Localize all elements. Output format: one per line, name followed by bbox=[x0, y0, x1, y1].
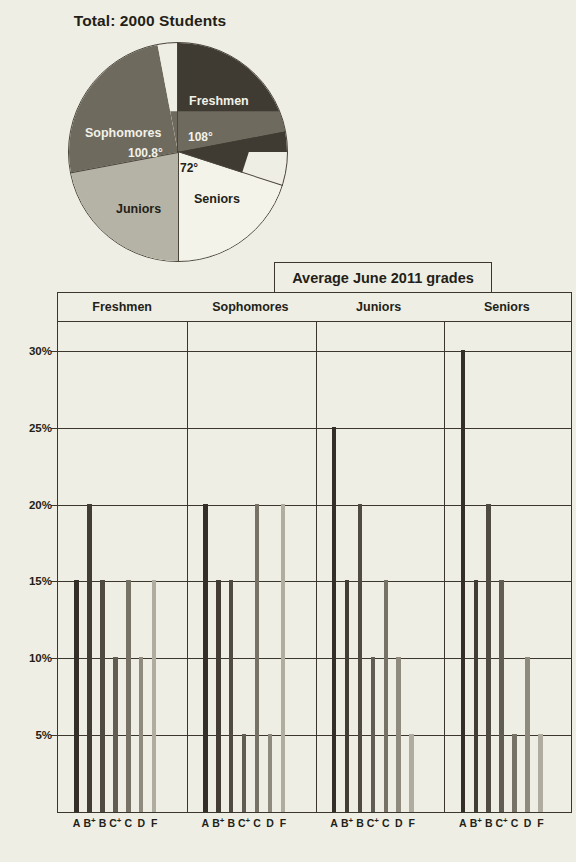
bar-group-sophomores bbox=[187, 321, 316, 812]
x-axis-labels: AB+BC+CDFAB+BC+CDFAB+BC+CDFAB+BC+CDF bbox=[58, 812, 571, 838]
pie-angle-freshmen: 108° bbox=[188, 130, 213, 144]
bar-seniors-D bbox=[525, 657, 530, 812]
pie-angle-sophomores: 100.8° bbox=[128, 146, 163, 160]
bar-seniors-A bbox=[461, 350, 466, 812]
bar-freshmen-B bbox=[100, 580, 105, 812]
bar-juniors-Bplus bbox=[345, 580, 350, 812]
x-label-group-freshmen: AB+BC+CDF bbox=[58, 812, 187, 838]
group-header-freshmen: Freshmen bbox=[58, 293, 186, 321]
bar-seniors-Bplus bbox=[474, 580, 479, 812]
bar-seniors-C bbox=[512, 734, 517, 812]
ytick-dash-20 bbox=[51, 505, 58, 506]
bar-freshmen-A bbox=[74, 580, 79, 812]
bar-juniors-D bbox=[396, 657, 401, 812]
ytick-dash-5 bbox=[51, 735, 58, 736]
bar-group-freshmen bbox=[58, 321, 187, 812]
ytick-label-20: 20% bbox=[29, 499, 52, 511]
bar-juniors-A bbox=[332, 427, 337, 812]
bar-sophomores-A bbox=[203, 504, 208, 812]
x-label-group-seniors: AB+BC+CDF bbox=[444, 812, 573, 838]
bar-chart-title-box: Average June 2011 grades bbox=[274, 262, 492, 293]
bar-chart-title: Average June 2011 grades bbox=[292, 270, 474, 286]
bar-juniors-Cplus bbox=[371, 657, 376, 812]
pie-chart-section: Total: 2000 Students Freshmen108°Seniors… bbox=[0, 0, 320, 268]
group-header-seniors: Seniors bbox=[443, 293, 571, 321]
bar-sophomores-Bplus bbox=[216, 580, 221, 812]
ytick-dash-15 bbox=[51, 581, 58, 582]
bar-freshmen-Bplus bbox=[87, 504, 92, 812]
pie-slice-divider bbox=[178, 152, 179, 262]
bar-group-seniors bbox=[444, 321, 573, 812]
bar-juniors-B bbox=[358, 504, 363, 812]
ytick-label-15: 15% bbox=[29, 575, 52, 587]
bar-sophomores-C bbox=[255, 504, 260, 812]
bar-sophomores-B bbox=[229, 580, 234, 812]
ytick-dash-30 bbox=[51, 351, 58, 352]
ytick-label-25: 25% bbox=[29, 422, 52, 434]
x-label-group-sophomores: AB+BC+CDF bbox=[187, 812, 316, 838]
bar-chart-section: Average June 2011 grades FreshmenSophomo… bbox=[0, 262, 576, 862]
pie-label-sophomores: Sophomores bbox=[85, 126, 161, 140]
bar-juniors-C bbox=[384, 580, 389, 812]
bar-seniors-F bbox=[538, 734, 543, 812]
group-header-sophomores: Sophomores bbox=[186, 293, 314, 321]
bar-sophomores-D bbox=[268, 734, 273, 812]
bar-seniors-B bbox=[486, 504, 491, 812]
bar-sophomores-F bbox=[281, 504, 286, 812]
pie-chart-title: Total: 2000 Students bbox=[0, 12, 300, 30]
ytick-label-5: 5% bbox=[35, 729, 52, 741]
pie-slice-divider bbox=[177, 42, 178, 152]
bar-juniors-F bbox=[409, 734, 414, 812]
pie-label-juniors: Juniors bbox=[116, 202, 161, 216]
pie-label-freshmen: Freshmen bbox=[189, 94, 249, 108]
bar-group-juniors bbox=[316, 321, 445, 812]
bar-freshmen-D bbox=[139, 657, 144, 812]
bar-chart-plot-area: 30%25%20%15%10%5%AB+BC+CDFAB+BC+CDFAB+BC… bbox=[57, 321, 572, 813]
ytick-label-10: 10% bbox=[29, 652, 52, 664]
ytick-dash-25 bbox=[51, 428, 58, 429]
pie-label-seniors: Seniors bbox=[194, 192, 240, 206]
x-label-group-juniors: AB+BC+CDF bbox=[316, 812, 445, 838]
ytick-label-30: 30% bbox=[29, 345, 52, 357]
bar-freshmen-Cplus bbox=[113, 657, 118, 812]
group-header-row: FreshmenSophomoresJuniorsSeniors bbox=[57, 292, 572, 322]
ytick-dash-10 bbox=[51, 658, 58, 659]
group-header-juniors: Juniors bbox=[315, 293, 443, 321]
pie-chart: Freshmen108°Seniors72°JuniorsSophomores1… bbox=[68, 42, 288, 262]
bar-freshmen-C bbox=[126, 580, 131, 812]
bar-seniors-Cplus bbox=[499, 580, 504, 812]
pie-angle-seniors: 72° bbox=[180, 161, 198, 175]
bar-sophomores-Cplus bbox=[242, 734, 247, 812]
bar-freshmen-F bbox=[152, 580, 157, 812]
